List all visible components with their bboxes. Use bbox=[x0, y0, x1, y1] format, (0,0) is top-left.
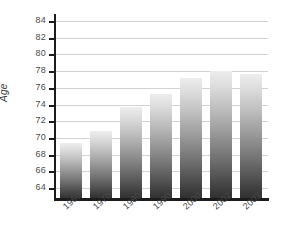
bar bbox=[240, 74, 262, 199]
bars-layer bbox=[56, 12, 268, 199]
y-tick-mark bbox=[49, 105, 56, 107]
y-tick-mark bbox=[49, 138, 56, 140]
bar-chart: 6466687072747678808284 Age 1960197019801… bbox=[0, 0, 283, 241]
bar bbox=[210, 71, 232, 199]
y-tick-mark bbox=[49, 121, 56, 123]
y-tick-mark bbox=[49, 54, 56, 56]
y-tick-mark bbox=[49, 71, 56, 73]
y-tick-label: 84 bbox=[24, 16, 46, 25]
bar bbox=[90, 131, 112, 199]
y-tick-mark bbox=[49, 38, 56, 40]
y-tick-label: 72 bbox=[24, 116, 46, 125]
bar bbox=[60, 143, 82, 199]
y-tick-label: 66 bbox=[24, 166, 46, 175]
y-tick-mark bbox=[49, 188, 56, 190]
bar bbox=[180, 78, 202, 199]
y-tick-label: 70 bbox=[24, 133, 46, 142]
y-tick-label: 64 bbox=[24, 183, 46, 192]
y-tick-label: 82 bbox=[24, 33, 46, 42]
y-axis-title: Age bbox=[0, 83, 9, 102]
bar bbox=[120, 107, 142, 199]
y-tick-label: 74 bbox=[24, 100, 46, 109]
y-tick-label: 78 bbox=[24, 66, 46, 75]
y-tick-label: 68 bbox=[24, 150, 46, 159]
x-axis-categories: 1960197019801990200020022003 bbox=[56, 204, 268, 241]
y-tick-mark bbox=[49, 155, 56, 157]
y-tick-mark bbox=[49, 88, 56, 90]
y-tick-mark bbox=[49, 21, 56, 23]
y-tick-label: 80 bbox=[24, 49, 46, 58]
y-tick-label: 76 bbox=[24, 83, 46, 92]
bar bbox=[150, 94, 172, 199]
y-tick-mark bbox=[49, 171, 56, 173]
